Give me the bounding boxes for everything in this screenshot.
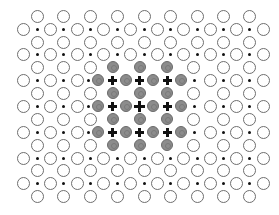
plus-icon [135,128,144,137]
dot-icon [169,157,172,160]
dot-icon [248,79,251,82]
dot-icon [87,105,90,108]
open-circle-icon [84,113,97,126]
open-circle-icon [57,164,70,177]
dot-icon [248,53,251,56]
gray-circle-icon [161,139,173,151]
dot-icon [143,53,146,56]
open-circle-icon [191,164,204,177]
open-circle-icon [44,152,57,165]
open-circle-icon [217,10,230,23]
open-circle-icon [71,100,84,113]
open-circle-icon [177,152,190,165]
gray-circle-icon [107,87,119,99]
dot-icon [193,131,196,134]
dot-icon [193,105,196,108]
open-circle-icon [243,113,256,126]
open-circle-icon [97,23,110,36]
open-circle-icon [243,87,256,100]
open-circle-icon [57,87,70,100]
open-circle-icon [257,152,270,165]
open-circle-icon [191,36,204,49]
plus-icon [108,102,117,111]
plus-icon [108,76,117,85]
gray-circle-icon [92,100,104,112]
dot-icon [222,105,225,108]
lattice-diagram [0,0,279,215]
gray-circle-icon [92,126,104,138]
open-circle-icon [217,190,230,203]
open-circle-icon [44,48,57,61]
open-circle-icon [217,61,230,74]
gray-circle-icon [107,139,119,151]
open-circle-icon [71,152,84,165]
open-circle-icon [191,190,204,203]
dot-icon [36,79,39,82]
dot-icon [143,182,146,185]
open-circle-icon [257,48,270,61]
plus-icon [163,102,172,111]
open-circle-icon [17,152,30,165]
open-circle-icon [17,23,30,36]
open-circle-icon [257,126,270,139]
open-circle-icon [97,177,110,190]
open-circle-icon [230,48,243,61]
open-circle-icon [217,164,230,177]
dot-icon [222,53,225,56]
open-circle-icon [97,152,110,165]
open-circle-icon [230,152,243,165]
open-circle-icon [31,36,44,49]
gray-circle-icon [147,100,159,112]
open-circle-icon [243,164,256,177]
dot-icon [36,131,39,134]
open-circle-icon [187,139,200,152]
dot-icon [143,157,146,160]
open-circle-icon [138,36,151,49]
open-circle-icon [243,36,256,49]
dot-icon [36,28,39,31]
open-circle-icon [31,164,44,177]
open-circle-icon [230,177,243,190]
dot-icon [143,28,146,31]
plus-icon [163,76,172,85]
plus-icon [163,128,172,137]
open-circle-icon [97,48,110,61]
plus-icon [108,128,117,137]
open-circle-icon [138,10,151,23]
open-circle-icon [31,139,44,152]
gray-circle-icon [134,87,146,99]
gray-circle-icon [92,74,104,86]
open-circle-icon [257,100,270,113]
open-circle-icon [84,139,97,152]
center-plus-icon [134,101,145,112]
dot-icon [222,157,225,160]
open-circle-icon [243,190,256,203]
open-circle-icon [257,177,270,190]
open-circle-icon [164,36,177,49]
dot-icon [62,53,65,56]
gray-circle-icon [120,126,132,138]
open-circle-icon [187,61,200,74]
open-circle-icon [151,177,164,190]
gray-circle-icon [161,61,173,73]
open-circle-icon [57,10,70,23]
dot-icon [87,131,90,134]
open-circle-icon [44,177,57,190]
open-circle-icon [84,61,97,74]
dot-icon [36,53,39,56]
open-circle-icon [17,126,30,139]
open-circle-icon [230,100,243,113]
dot-icon [169,53,172,56]
gray-circle-icon [147,126,159,138]
open-circle-icon [111,164,124,177]
open-circle-icon [177,48,190,61]
open-circle-icon [84,190,97,203]
open-circle-icon [124,152,137,165]
open-circle-icon [44,126,57,139]
open-circle-icon [31,61,44,74]
open-circle-icon [17,48,30,61]
open-circle-icon [44,100,57,113]
dot-icon [248,157,251,160]
dot-icon [116,53,119,56]
open-circle-icon [111,36,124,49]
